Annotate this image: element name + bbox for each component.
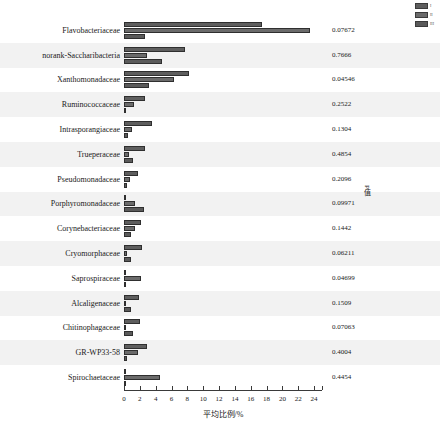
bar-series-I: [124, 369, 126, 374]
grouped-bar-chart: I II III Flavobacteriaceae0.07672norank-…: [0, 0, 440, 443]
category-label: Corynebacteriaceae: [0, 224, 124, 233]
bar-series-III: [124, 59, 162, 64]
bar-group: [124, 241, 322, 266]
bar-series-II: [124, 53, 147, 58]
x-axis-tick: [235, 386, 236, 390]
x-axis-tick-label: 12: [216, 395, 223, 403]
bar-series-III: [124, 158, 133, 163]
bar-series-II: [124, 201, 135, 206]
category-label: Alcaligenaceae: [0, 299, 124, 308]
bar-series-I: [124, 22, 262, 27]
x-axis-tick: [203, 386, 204, 390]
x-axis-tick-label: 0: [122, 395, 126, 403]
chart-row: Saprospiraceae0.04699: [0, 266, 440, 291]
x-axis-tick: [187, 386, 188, 390]
bar-series-III: [124, 257, 131, 262]
bar-series-I: [124, 71, 189, 76]
legend-swatch-1: [415, 3, 428, 9]
chart-row: Trueperaceae0.4854: [0, 142, 440, 167]
bar-series-I: [124, 344, 147, 349]
bar-group: [124, 316, 322, 341]
bar-series-I: [124, 319, 140, 324]
bar-series-III: [124, 356, 127, 361]
chart-row: Porphyromonadaceae0.09971: [0, 192, 440, 217]
category-rows: Flavobacteriaceae0.07672norank-Saccharib…: [0, 18, 440, 390]
category-label: Xanthomonadaceae: [0, 75, 124, 84]
bar-group: [124, 68, 322, 93]
bar-group: [124, 167, 322, 192]
chart-row: norank-Saccharibacteria0.7666: [0, 43, 440, 68]
bar-series-III: [124, 34, 145, 39]
x-axis-tick: [251, 386, 252, 390]
chart-row: Xanthomonadaceae0.04546: [0, 68, 440, 93]
bar-group: [124, 92, 322, 117]
bar-series-II: [124, 226, 135, 231]
category-label: Saprospiraceae: [0, 274, 124, 283]
bar-series-II: [124, 325, 126, 330]
pvalue-cell: 0.06211: [322, 249, 440, 258]
pvalue-axis-title: P值: [362, 185, 372, 196]
pvalue-cell: 0.04699: [322, 274, 440, 283]
bar-series-I: [124, 270, 126, 275]
bar-series-II: [124, 375, 160, 380]
x-axis-tick: [124, 386, 125, 390]
x-axis-tick: [219, 386, 220, 390]
bar-series-II: [124, 276, 141, 281]
bar-group: [124, 117, 322, 142]
category-label: GR-WP33-58: [0, 348, 124, 357]
legend-entry: II: [415, 11, 434, 18]
category-label: Flavobacteriaceae: [0, 26, 124, 35]
x-axis: 024681012141618202224: [124, 390, 322, 391]
x-axis-tick-label: 10: [200, 395, 207, 403]
pvalue-cell: 0.1442: [322, 224, 440, 233]
bar-series-II: [124, 350, 138, 355]
pvalue-cell: 0.4454: [322, 373, 440, 382]
x-axis-end-cap: [322, 386, 323, 390]
bar-series-III: [124, 331, 133, 336]
plot-area: Flavobacteriaceae0.07672norank-Saccharib…: [0, 18, 440, 390]
pvalue-cell: 0.1509: [322, 299, 440, 308]
category-label: Chitinophagaceae: [0, 323, 124, 332]
pvalue-cell: 0.2096: [322, 175, 440, 184]
bar-series-III: [124, 108, 126, 113]
bar-group: [124, 216, 322, 241]
bar-series-II: [124, 251, 127, 256]
bar-series-II: [124, 152, 129, 157]
bar-series-I: [124, 171, 138, 176]
category-label: Pseudomonadaceae: [0, 175, 124, 184]
category-label: Spirochaetaceae: [0, 373, 124, 382]
bar-group: [124, 43, 322, 68]
x-axis-tick: [282, 386, 283, 390]
category-label: Porphyromonadaceae: [0, 199, 124, 208]
x-axis-tick: [172, 386, 173, 390]
bar-group: [124, 340, 322, 365]
x-axis-tick-label: 4: [154, 395, 158, 403]
bar-series-III: [124, 83, 149, 88]
bar-series-III: [124, 207, 144, 212]
x-axis-tick-label: 22: [295, 395, 302, 403]
x-axis-tick-label: 18: [263, 395, 270, 403]
bar-group: [124, 365, 322, 390]
chart-row: Alcaligenaceae0.1509: [0, 291, 440, 316]
x-axis-tick-label: 16: [247, 395, 254, 403]
chart-row: Corynebacteriaceae0.1442: [0, 216, 440, 241]
bar-series-I: [124, 96, 145, 101]
pvalue-cell: 0.7666: [322, 51, 440, 60]
category-label: Cryomorphaceae: [0, 249, 124, 258]
bar-series-III: [124, 232, 131, 237]
x-axis-tick: [298, 386, 299, 390]
bar-group: [124, 266, 322, 291]
x-axis-tick-label: 20: [279, 395, 286, 403]
chart-row: Flavobacteriaceae0.07672: [0, 18, 440, 43]
bar-series-II: [124, 102, 134, 107]
pvalue-cell: 0.07672: [322, 26, 440, 35]
bar-series-I: [124, 245, 142, 250]
bar-series-II: [124, 127, 132, 132]
x-axis-tick: [140, 386, 141, 390]
chart-row: Chitinophagaceae0.07063: [0, 316, 440, 341]
x-axis-tick: [314, 386, 315, 390]
bar-series-III: [124, 307, 131, 312]
pvalue-cell: 0.04546: [322, 75, 440, 84]
bar-series-II: [124, 77, 174, 82]
bar-series-III: [124, 282, 126, 287]
